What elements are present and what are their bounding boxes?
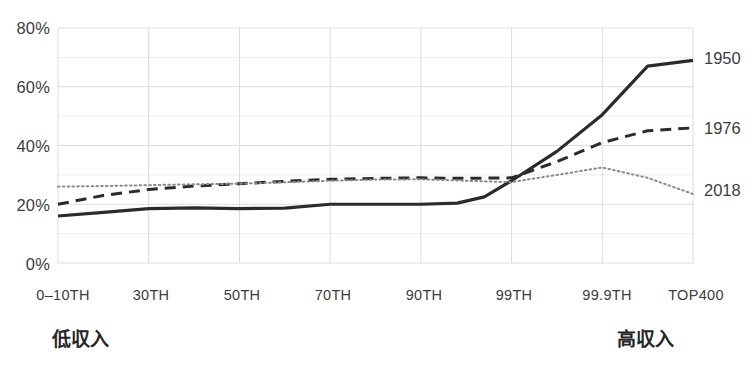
series-label-1976: 1976 (704, 119, 741, 138)
x-tick-label-5: 99TH (496, 287, 533, 303)
x-tick-label-1: 30TH (133, 287, 170, 303)
x-tick-label-0: 0–10TH (36, 287, 89, 303)
x-tick-label-3: 70TH (315, 287, 352, 303)
series-label-2018: 2018 (704, 181, 741, 200)
x-tick-label-7: TOP400 (668, 287, 724, 303)
series-line-1976 (58, 128, 693, 204)
annotation-high-income: 高収入 (617, 324, 674, 351)
series-label-1950: 1950 (704, 49, 741, 68)
x-tick-label-6: 99.9TH (582, 287, 631, 303)
x-tick-label-4: 90TH (406, 287, 443, 303)
series-lines (58, 60, 693, 216)
income-tax-rate-chart: 80% 60% 40% 20% 0% 0–10TH 30TH 50TH 70TH… (0, 0, 752, 368)
x-tick-label-2: 50TH (224, 287, 261, 303)
plot-area (0, 0, 752, 368)
annotation-low-income: 低収入 (52, 324, 109, 351)
series-line-1950 (58, 60, 693, 216)
